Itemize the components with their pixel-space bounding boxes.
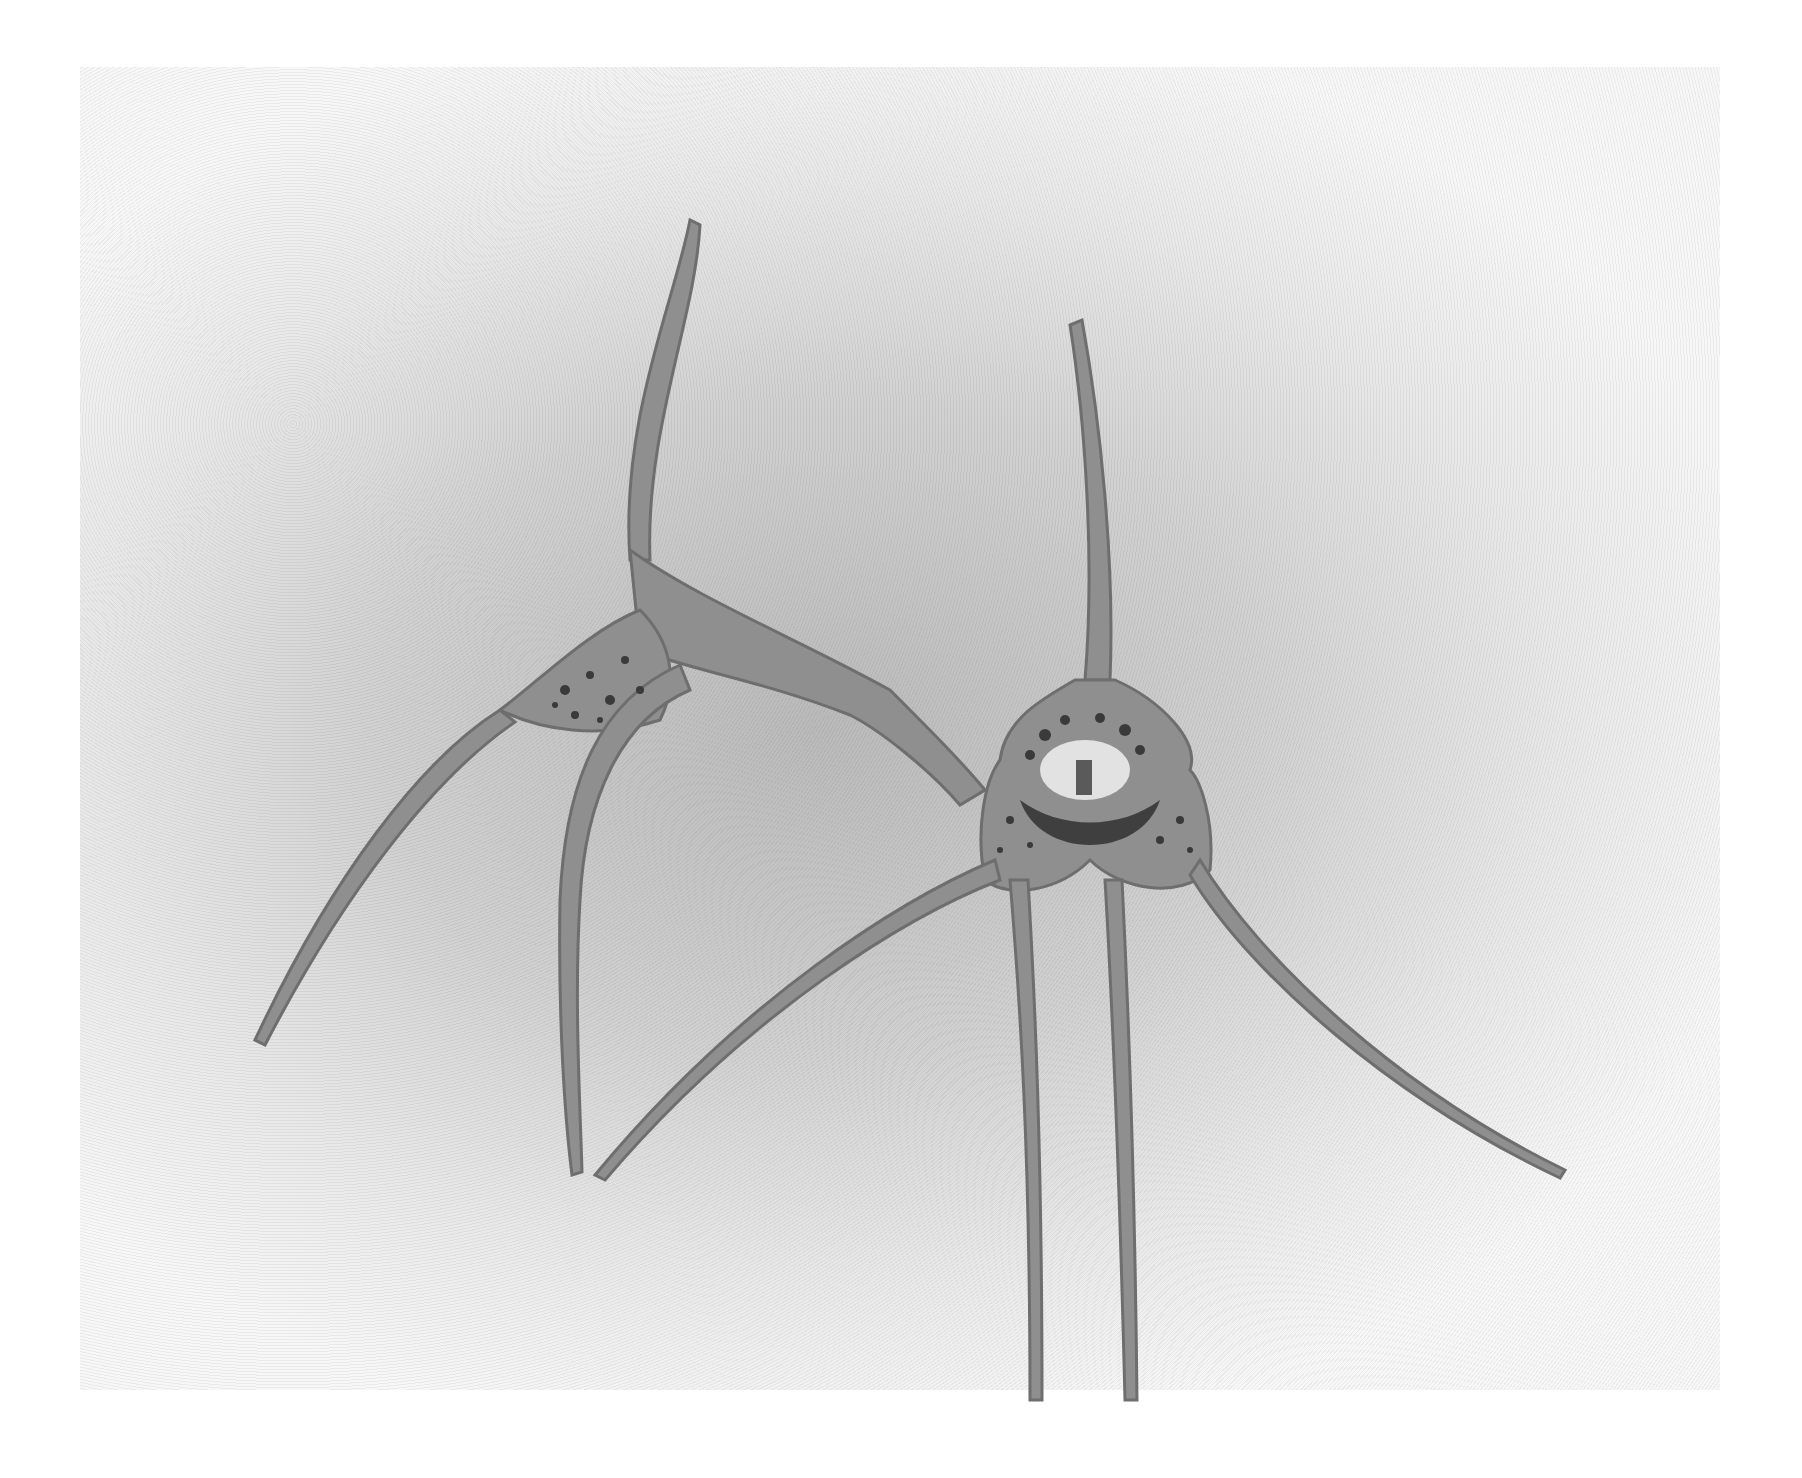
orchid-illustration	[0, 0, 1802, 1478]
left-flower	[255, 220, 985, 1175]
right-flower	[595, 320, 1565, 1400]
